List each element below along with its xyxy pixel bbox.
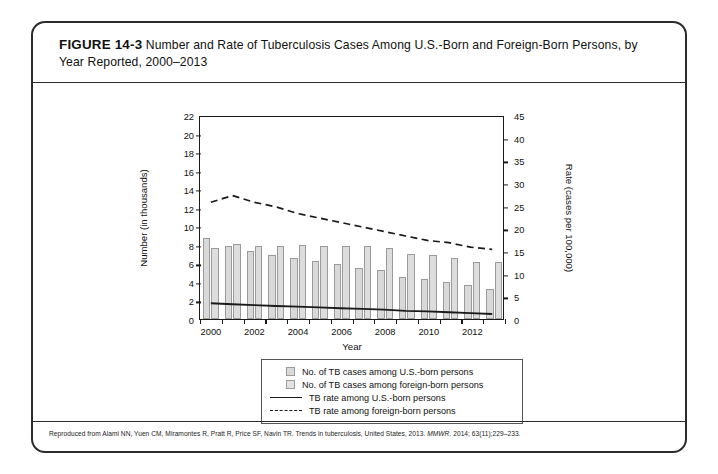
solid-line-icon bbox=[270, 397, 302, 398]
x-tick-mark bbox=[244, 319, 245, 324]
y-tick-left-2: 2 bbox=[189, 297, 200, 307]
legend-item-usborn-cases: No. of TB cases among U.S.-born persons bbox=[270, 365, 514, 378]
x-tick-label-2008: 2008 bbox=[375, 327, 396, 337]
x-tick-mark bbox=[483, 319, 484, 324]
y-tick-left-20: 20 bbox=[184, 131, 200, 141]
y-tick-left-18: 18 bbox=[184, 149, 200, 159]
y-tick-left-0: 0 bbox=[189, 316, 200, 326]
dashed-line-icon bbox=[270, 410, 302, 411]
y-tick-right-25: 25 bbox=[503, 203, 524, 213]
legend-item-usborn-rate: TB rate among U.S.-born persons bbox=[270, 391, 514, 404]
x-tick-mark bbox=[353, 319, 354, 324]
y-axis-title-right: Rate (cases per 100,000) bbox=[564, 164, 575, 272]
y-tick-left-8: 8 bbox=[189, 242, 200, 252]
y-tick-right-5: 5 bbox=[503, 293, 519, 303]
x-tick-mark bbox=[222, 319, 223, 324]
x-tick-mark bbox=[374, 319, 375, 324]
x-tick-mark bbox=[418, 319, 419, 324]
legend-label: No. of TB cases among foreign-born perso… bbox=[302, 380, 483, 390]
x-tick-label-2002: 2002 bbox=[244, 327, 265, 337]
y-tick-left-12: 12 bbox=[184, 205, 200, 215]
x-tick-label-2004: 2004 bbox=[288, 327, 309, 337]
x-tick-mark bbox=[505, 319, 506, 324]
line-rate-foreignborn bbox=[211, 196, 492, 250]
source-credit: Reproduced from Alami NN, Yuen CM, Miram… bbox=[49, 430, 685, 437]
chart-body: Number (in thousands) Rate (cases per 10… bbox=[33, 83, 685, 425]
y-tick-left-14: 14 bbox=[184, 186, 200, 196]
x-tick-mark bbox=[331, 319, 332, 324]
x-tick-mark bbox=[461, 319, 462, 324]
y-tick-right-30: 30 bbox=[503, 180, 524, 190]
rate-lines bbox=[200, 117, 503, 319]
figure-title-bar: FIGURE 14-3 Number and Rate of Tuberculo… bbox=[33, 23, 685, 83]
y-tick-left-6: 6 bbox=[189, 260, 200, 270]
y-tick-right-40: 40 bbox=[503, 135, 524, 145]
x-axis-title: Year bbox=[342, 341, 361, 352]
legend-label: TB rate among U.S.-born persons bbox=[309, 393, 445, 403]
x-tick-label-2000: 2000 bbox=[201, 327, 222, 337]
x-tick-label-2010: 2010 bbox=[418, 327, 439, 337]
x-tick-mark bbox=[200, 319, 201, 324]
legend-label: No. of TB cases among U.S.-born persons bbox=[302, 367, 473, 377]
figure-title-text: Number and Rate of Tuberculosis Cases Am… bbox=[59, 38, 638, 69]
figure-number: FIGURE 14-3 bbox=[59, 37, 142, 52]
y-tick-left-22: 22 bbox=[184, 112, 200, 122]
credit-suffix: 2014; 63(11);229–233. bbox=[451, 430, 520, 437]
x-tick-mark bbox=[440, 319, 441, 324]
figure-footer: Reproduced from Alami NN, Yuen CM, Miram… bbox=[33, 421, 685, 451]
y-tick-right-45: 45 bbox=[503, 112, 524, 122]
x-tick-label-2006: 2006 bbox=[331, 327, 352, 337]
legend-item-foreignborn-rate: TB rate among foreign-born persons bbox=[270, 404, 514, 417]
x-tick-label-2012: 2012 bbox=[462, 327, 483, 337]
x-tick-mark bbox=[287, 319, 288, 324]
plot-area: 0246810121416182022 051015202530354045 2… bbox=[199, 116, 504, 320]
y-tick-left-4: 4 bbox=[189, 279, 200, 289]
y-tick-right-10: 10 bbox=[503, 271, 524, 281]
x-tick-mark bbox=[309, 319, 310, 324]
page-title: FIGURE 14-3 Number and Rate of Tuberculo… bbox=[59, 35, 659, 72]
legend-label: TB rate among foreign-born persons bbox=[309, 406, 456, 416]
y-tick-left-10: 10 bbox=[184, 223, 200, 233]
legend-item-foreignborn-cases: No. of TB cases among foreign-born perso… bbox=[270, 378, 514, 391]
figure-card: FIGURE 14-3 Number and Rate of Tuberculo… bbox=[31, 21, 687, 453]
chart-legend: No. of TB cases among U.S.-born persons … bbox=[261, 359, 523, 424]
y-tick-right-15: 15 bbox=[503, 248, 524, 258]
credit-journal: MMWR. bbox=[427, 430, 451, 437]
swatch-foreignborn-icon bbox=[286, 380, 295, 389]
y-tick-right-35: 35 bbox=[503, 157, 524, 167]
x-tick-mark bbox=[396, 319, 397, 324]
x-tick-mark bbox=[265, 319, 266, 324]
line-rate-usborn bbox=[211, 303, 492, 314]
y-tick-right-20: 20 bbox=[503, 225, 524, 235]
y-axis-title-left: Number (in thousands) bbox=[138, 169, 149, 267]
credit-prefix: Reproduced from Alami NN, Yuen CM, Miram… bbox=[49, 430, 427, 437]
swatch-usborn-icon bbox=[286, 367, 295, 376]
plot-wrap: Number (in thousands) Rate (cases per 10… bbox=[33, 83, 687, 353]
y-tick-left-16: 16 bbox=[184, 168, 200, 178]
